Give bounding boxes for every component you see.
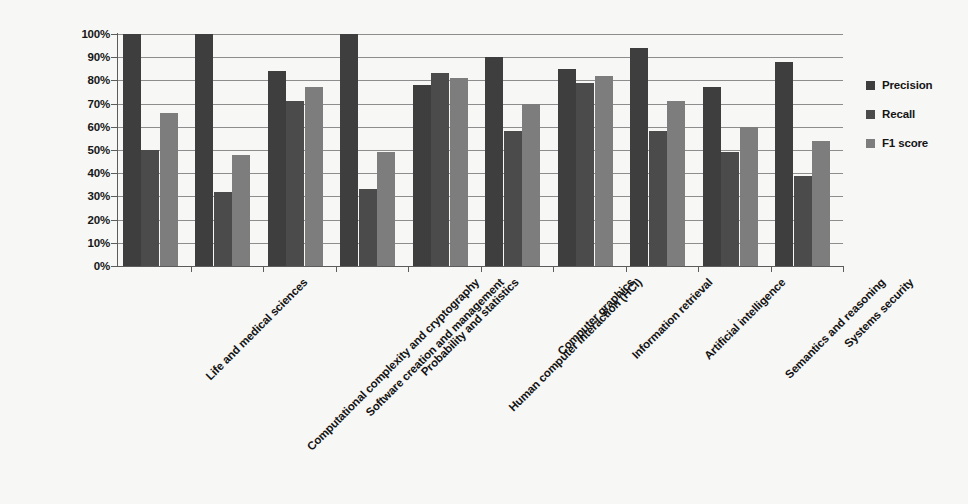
- bar-precision[interactable]: [413, 85, 431, 266]
- bar-precision[interactable]: [775, 62, 793, 266]
- y-axis-tick-label: 50%: [88, 144, 110, 156]
- bar-precision[interactable]: [558, 69, 576, 266]
- legend-label: Recall: [882, 108, 915, 120]
- bar-recall[interactable]: [721, 152, 739, 266]
- bar-f1[interactable]: [812, 141, 830, 266]
- bar-f1[interactable]: [377, 152, 395, 266]
- bar-f1[interactable]: [160, 113, 178, 266]
- y-axis-tick-mark: [111, 127, 118, 128]
- bar-f1[interactable]: [740, 127, 758, 266]
- legend-swatch-icon: [866, 110, 875, 119]
- x-axis-tick-mark: [553, 266, 554, 272]
- bar-group: [630, 34, 685, 266]
- legend-swatch-icon: [866, 81, 875, 90]
- bar-recall[interactable]: [214, 192, 232, 266]
- x-axis-tick-mark: [843, 266, 844, 272]
- x-axis-category-label: Artificial intelligence: [702, 276, 788, 362]
- x-axis-category-label: Information retrieval: [630, 276, 715, 361]
- bar-f1[interactable]: [667, 101, 685, 266]
- bar-f1[interactable]: [232, 155, 250, 266]
- x-axis-category-label: Computer graphics: [556, 276, 637, 357]
- bar-f1[interactable]: [450, 78, 468, 266]
- y-axis-tick-label: 100%: [81, 28, 110, 40]
- bar-recall[interactable]: [504, 131, 522, 266]
- legend-label: Precision: [882, 79, 932, 91]
- bar-precision[interactable]: [340, 34, 358, 266]
- bar-f1[interactable]: [305, 87, 323, 266]
- bar-recall[interactable]: [576, 83, 594, 266]
- y-axis-tick-mark: [111, 104, 118, 105]
- y-axis-tick-mark: [111, 57, 118, 58]
- bar-recall[interactable]: [794, 176, 812, 266]
- x-axis-category-label: Life and medical sciences: [203, 276, 309, 382]
- bar-precision[interactable]: [195, 34, 213, 266]
- bar-recall[interactable]: [431, 73, 449, 266]
- bar-group: [485, 34, 540, 266]
- y-axis-labels: 100%90%80%70%60%50%40%30%20%10%0%: [0, 0, 110, 504]
- bar-recall[interactable]: [141, 150, 159, 266]
- legend-label: F1 score: [882, 137, 928, 149]
- x-axis-tick-mark: [626, 266, 627, 272]
- bar-group: [123, 34, 178, 266]
- y-axis-tick-label: 20%: [88, 214, 110, 226]
- bar-precision[interactable]: [630, 48, 648, 266]
- x-axis-tick-mark: [263, 266, 264, 272]
- bar-group: [775, 34, 830, 266]
- bar-group: [413, 34, 468, 266]
- bar-f1[interactable]: [595, 76, 613, 266]
- bar-group: [268, 34, 323, 266]
- legend-item-recall[interactable]: Recall: [866, 102, 966, 126]
- plot-area: [118, 34, 843, 266]
- y-axis-tick-mark: [111, 34, 118, 35]
- bar-precision[interactable]: [268, 71, 286, 266]
- chart-legend: PrecisionRecallF1 score: [866, 73, 966, 160]
- y-axis-tick-label: 40%: [88, 167, 110, 179]
- bar-recall[interactable]: [649, 131, 667, 266]
- bar-precision[interactable]: [123, 34, 141, 266]
- y-axis-tick-label: 0%: [94, 260, 110, 272]
- y-axis-tick-mark: [111, 266, 118, 267]
- y-axis-tick-label: 90%: [88, 51, 110, 63]
- x-axis-category-label: Computational complexity and cryptograph…: [305, 276, 482, 453]
- bar-precision[interactable]: [703, 87, 721, 266]
- y-axis-tick-label: 60%: [88, 121, 110, 133]
- y-axis-tick-label: 30%: [88, 190, 110, 202]
- x-axis-tick-mark: [481, 266, 482, 272]
- x-axis-tick-mark: [408, 266, 409, 272]
- y-axis-tick-mark: [111, 80, 118, 81]
- bar-group: [558, 34, 613, 266]
- chart-page: 100%90%80%70%60%50%40%30%20%10%0% Life a…: [0, 0, 968, 504]
- y-axis-tick-mark: [111, 196, 118, 197]
- y-axis-tick-mark: [111, 220, 118, 221]
- x-axis-tick-mark: [191, 266, 192, 272]
- bar-precision[interactable]: [485, 57, 503, 266]
- bar-group: [703, 34, 758, 266]
- y-axis-tick-mark: [111, 243, 118, 244]
- legend-item-precision[interactable]: Precision: [866, 73, 966, 97]
- y-axis-tick-mark: [111, 150, 118, 151]
- x-axis-category-label: Software creation and management: [363, 276, 505, 418]
- legend-swatch-icon: [866, 139, 875, 148]
- x-axis-tick-mark: [771, 266, 772, 272]
- bar-recall[interactable]: [286, 101, 304, 266]
- y-axis-tick-label: 10%: [88, 237, 110, 249]
- bar-group: [195, 34, 250, 266]
- legend-item-f1[interactable]: F1 score: [866, 131, 966, 155]
- bar-group: [340, 34, 395, 266]
- y-axis-tick-label: 80%: [88, 74, 110, 86]
- bar-f1[interactable]: [522, 104, 540, 266]
- x-axis-tick-mark: [698, 266, 699, 272]
- y-axis-tick-label: 70%: [88, 98, 110, 110]
- y-axis-tick-mark: [111, 173, 118, 174]
- x-axis-tick-mark: [336, 266, 337, 272]
- bar-recall[interactable]: [359, 189, 377, 266]
